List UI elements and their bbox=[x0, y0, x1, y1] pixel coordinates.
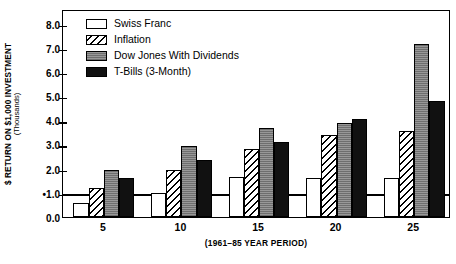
legend-item: Swiss Franc bbox=[86, 16, 239, 31]
y-axis-tick-label: •1.0 bbox=[26, 188, 60, 199]
bar bbox=[399, 131, 414, 217]
bar bbox=[119, 178, 134, 217]
x-axis-tick-labels: 510152025 bbox=[62, 221, 450, 237]
bar bbox=[259, 128, 274, 217]
bar bbox=[89, 188, 104, 217]
legend-item-label: Swiss Franc bbox=[114, 18, 171, 29]
bar bbox=[384, 178, 399, 217]
bar-group bbox=[384, 11, 445, 217]
y-axis-tick-label: 5.0 bbox=[26, 92, 60, 103]
chart-legend: Swiss FrancInflationDow Jones With Divid… bbox=[86, 16, 239, 80]
y-axis-tick-label: 2.0 bbox=[26, 164, 60, 175]
legend-item: T-Bills (3-Month) bbox=[86, 64, 239, 79]
legend-item-label: T-Bills (3-Month) bbox=[114, 66, 191, 77]
bar bbox=[197, 160, 212, 217]
legend-swatch-icon bbox=[86, 35, 107, 45]
bar bbox=[151, 193, 166, 217]
bar bbox=[414, 44, 429, 217]
x-axis-tick-label: 10 bbox=[175, 221, 187, 233]
bar bbox=[352, 119, 367, 217]
x-axis-tick-label: 25 bbox=[407, 221, 419, 233]
bar bbox=[181, 146, 196, 217]
bar bbox=[73, 203, 88, 218]
y-axis-tick-labels: 0.0•1.02.03.04.05.06.07.08.0 bbox=[22, 0, 60, 264]
bar bbox=[166, 170, 181, 217]
x-axis-tick-label: 15 bbox=[252, 221, 264, 233]
bar bbox=[229, 177, 244, 217]
y-axis-tick-label: 8.0 bbox=[26, 19, 60, 30]
bar bbox=[429, 101, 444, 217]
x-axis-title: (1961–85 YEAR PERIOD) bbox=[62, 238, 450, 248]
bar-chart: $ RETURN ON $1,000 INVESTMENT (Thousands… bbox=[0, 0, 456, 264]
x-axis-tick-label: 20 bbox=[330, 221, 342, 233]
bar-group bbox=[306, 11, 367, 217]
y-axis-tick-label: 7.0 bbox=[26, 43, 60, 54]
y-axis-title-units: (Thousands) bbox=[13, 93, 21, 136]
y-axis-tick-label: 0.0 bbox=[26, 213, 60, 224]
bar bbox=[104, 170, 119, 217]
bar bbox=[274, 142, 289, 217]
legend-item: Dow Jones With Dividends bbox=[86, 48, 239, 63]
legend-swatch-icon bbox=[86, 19, 107, 29]
bar bbox=[337, 123, 352, 217]
legend-swatch-icon bbox=[86, 51, 107, 61]
y-axis-tick-label: 4.0 bbox=[26, 116, 60, 127]
bar bbox=[244, 149, 259, 217]
bar bbox=[321, 135, 336, 217]
legend-swatch-icon bbox=[86, 67, 107, 77]
legend-item-label: Inflation bbox=[114, 34, 151, 45]
legend-item: Inflation bbox=[86, 32, 239, 47]
legend-item-label: Dow Jones With Dividends bbox=[114, 50, 239, 61]
x-axis-tick-label: 5 bbox=[100, 221, 106, 233]
bar bbox=[306, 178, 321, 217]
y-axis-tick-label: 3.0 bbox=[26, 140, 60, 151]
y-axis-tick-label: 6.0 bbox=[26, 67, 60, 78]
